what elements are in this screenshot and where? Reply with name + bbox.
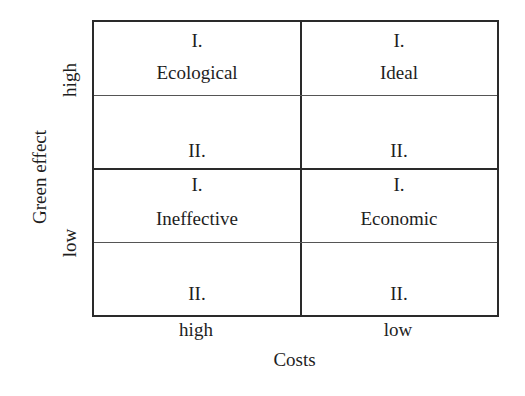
x-axis-title: Costs — [93, 350, 496, 370]
y-axis-tick-high: high — [60, 40, 80, 120]
y-axis-tick-low: low — [60, 203, 80, 283]
quadrant-top-left-sub-ii: II. — [94, 141, 300, 161]
quadrant-top-right-sub-i: I. — [301, 31, 497, 51]
y-axis-title: Green effect — [30, 77, 50, 277]
x-axis-tick-low: low — [300, 320, 496, 340]
quadrant-top-right-sub-ii: II. — [301, 141, 497, 161]
quadrant-top-right-label: Ideal — [301, 63, 497, 83]
horizontal-divider — [94, 168, 497, 170]
quadrant-bottom-left-sub-ii: II. — [94, 284, 300, 304]
quadrant-bottom-left-label: Ineffective — [94, 209, 300, 229]
x-axis-tick-high: high — [93, 320, 299, 340]
bottom-subdivider — [94, 242, 497, 243]
quadrant-top-left-label: Ecological — [94, 63, 300, 83]
matrix-grid: I. Ecological II. I. Ideal II. I. Ineffe… — [92, 20, 499, 317]
quadrant-bottom-left-sub-i: I. — [94, 175, 300, 195]
quadrant-bottom-right-sub-i: I. — [301, 175, 497, 195]
top-subdivider — [94, 95, 497, 96]
quadrant-bottom-right-label: Economic — [301, 209, 497, 229]
quadrant-bottom-right-sub-ii: II. — [301, 284, 497, 304]
quadrant-top-left-sub-i: I. — [94, 31, 300, 51]
